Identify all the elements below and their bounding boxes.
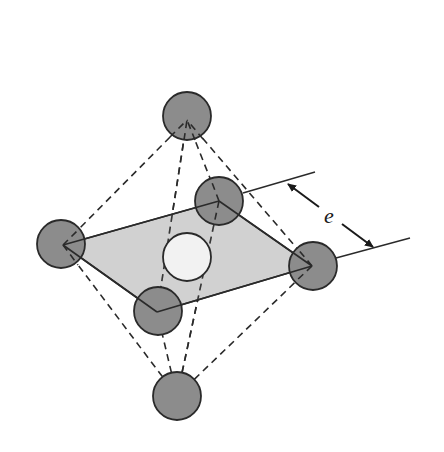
dimension-arrow-lower — [342, 224, 373, 247]
dimension-upper-extension — [243, 172, 315, 193]
dimension-arrow-upper — [288, 184, 319, 207]
atom-top — [163, 92, 211, 140]
atom-bottom — [153, 372, 201, 420]
interstitial-atom — [163, 233, 211, 281]
dimension-lower-extension — [336, 238, 410, 258]
octahedral-site-diagram: e — [0, 0, 444, 452]
atom-left — [37, 220, 85, 268]
dimension-label-e: e — [324, 203, 334, 228]
atom-right — [289, 242, 337, 290]
